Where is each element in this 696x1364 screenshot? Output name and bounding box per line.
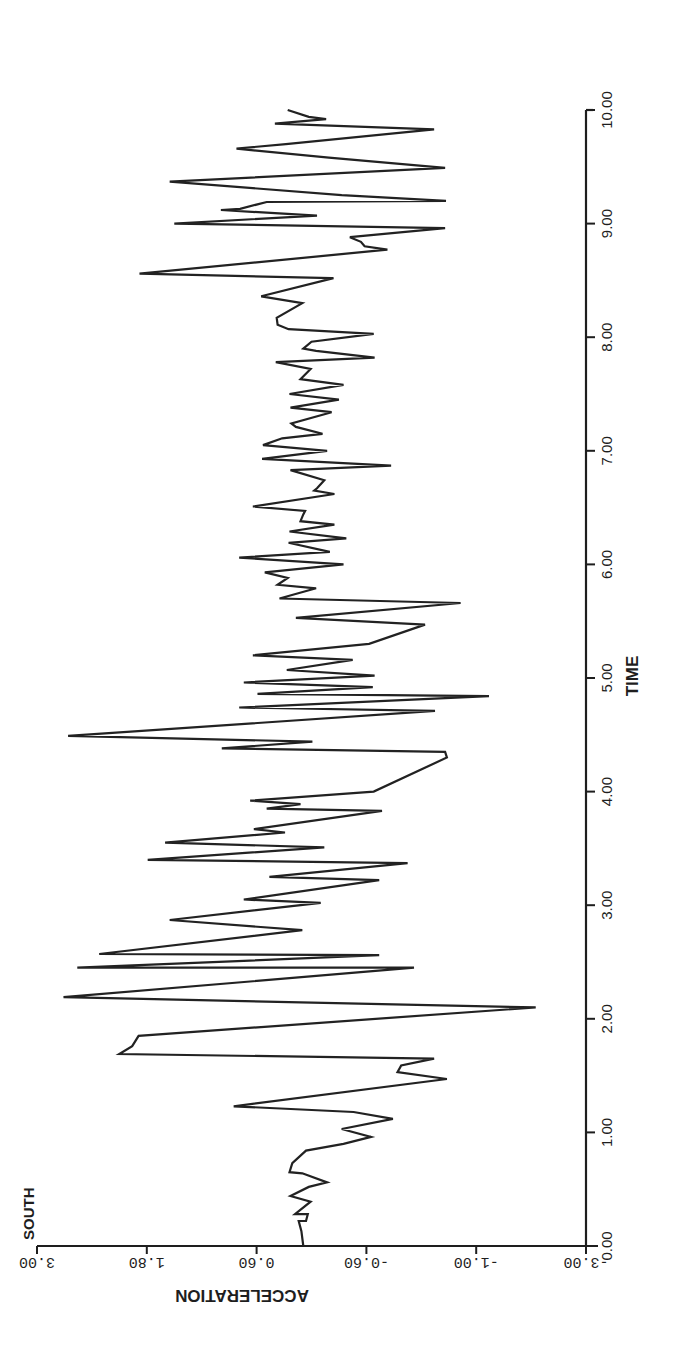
- time-axis-title: TIME: [623, 656, 642, 697]
- time-tick-label: 8.00: [598, 323, 615, 352]
- time-tick-label: 5.00: [598, 663, 615, 692]
- acceleration-tick-label: 1.80: [129, 1253, 165, 1270]
- acceleration-tick-label: -0.60: [344, 1253, 389, 1270]
- series-label-south: SOUTH: [20, 1188, 37, 1241]
- time-tick-label: 10.00: [598, 91, 615, 129]
- time-tick-label: 9.00: [598, 209, 615, 238]
- time-tick-label: 3.00: [598, 891, 615, 920]
- time-tick-label: 2.00: [598, 1004, 615, 1033]
- acceleration-tick-label: 0.60: [239, 1253, 275, 1270]
- time-tick-label: 1.00: [598, 1118, 615, 1147]
- acceleration-time-chart: 3.001.800.60-0.60-1.00-3.00 0.001.002.00…: [0, 0, 696, 1364]
- time-tick-label: 4.00: [598, 777, 615, 806]
- south-acceleration-trace: [64, 110, 536, 1246]
- time-tick-label: 0.00: [598, 1231, 615, 1260]
- acceleration-axis-title: ACCELERATION: [175, 1286, 309, 1305]
- acceleration-tick-label: -1.00: [454, 1253, 499, 1270]
- time-tick-label: 7.00: [598, 436, 615, 465]
- acceleration-ticks: 3.001.800.60-0.60-1.00-3.00: [19, 1246, 609, 1270]
- time-tick-label: 6.00: [598, 550, 615, 579]
- time-ticks: 0.001.002.003.004.005.006.007.008.009.00…: [586, 91, 615, 1260]
- acceleration-tick-label: 3.00: [19, 1253, 55, 1270]
